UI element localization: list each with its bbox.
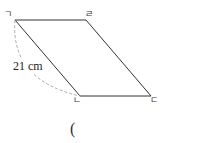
vertex-label-bottom-left: ㄴ bbox=[73, 96, 81, 105]
parallelogram-shape bbox=[15, 20, 151, 96]
vertex-label-top-left: ㄱ bbox=[4, 10, 12, 19]
vertex-label-top-right: ㄹ bbox=[85, 10, 93, 19]
answer-paren: ( bbox=[70, 120, 75, 138]
vertex-label-bottom-right: ㄷ bbox=[150, 96, 158, 105]
length-label: 21 cm bbox=[13, 59, 43, 74]
